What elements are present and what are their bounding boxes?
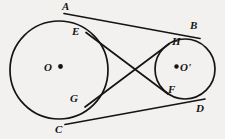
right-center-dot-icon xyxy=(174,64,178,68)
geometry-figure: A B C D E F G H O O' xyxy=(0,0,225,139)
point-label-f: F xyxy=(168,84,175,95)
point-label-a: A xyxy=(62,1,69,12)
point-label-g: G xyxy=(70,93,78,104)
bleed-through-text xyxy=(6,129,45,138)
left-center-dot-icon xyxy=(58,64,63,69)
right-center-label: O' xyxy=(180,62,191,73)
point-label-e: E xyxy=(72,26,79,37)
point-label-h: H xyxy=(172,36,181,47)
left-circle xyxy=(10,21,108,119)
point-label-b: B xyxy=(190,20,197,31)
point-label-d: D xyxy=(196,103,204,114)
left-center-label: O xyxy=(44,62,52,73)
point-label-c: C xyxy=(55,124,62,135)
